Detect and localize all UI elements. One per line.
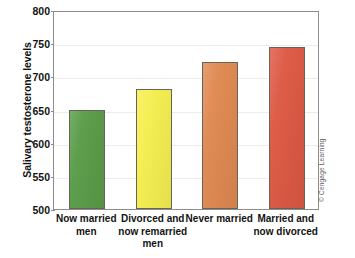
x-axis-label-line: men xyxy=(50,226,123,239)
y-tick-label: 550 xyxy=(24,172,50,182)
y-tick-label: 600 xyxy=(24,139,50,149)
y-tick-label: 700 xyxy=(24,72,50,82)
x-axis-label-line: now remarried xyxy=(117,226,190,239)
y-tick-label: 750 xyxy=(24,39,50,49)
x-axis-label-line: Divorced and xyxy=(117,213,190,226)
x-axis-label-line: men xyxy=(117,238,190,251)
y-axis-tick-labels: 500550600650700750800 xyxy=(24,0,50,258)
x-axis-label-line: now divorced xyxy=(250,226,323,239)
plot-area xyxy=(53,11,319,210)
bar xyxy=(269,47,305,209)
x-axis-label-line: Never married xyxy=(183,213,256,226)
y-tick-label: 500 xyxy=(24,205,50,215)
x-axis-category-labels: Now marriedmenDivorced andnow remarriedm… xyxy=(53,213,319,258)
bar xyxy=(69,110,105,210)
bar-chart-figure: Salivary testosterone levels 50055060065… xyxy=(0,0,355,258)
x-axis-label: Never married xyxy=(183,213,256,226)
x-axis-label-line: Married and xyxy=(250,213,323,226)
x-axis-label: Now marriedmen xyxy=(50,213,123,238)
copyright-credit: © Cengage Learning xyxy=(318,122,325,202)
y-tick-mark xyxy=(51,210,55,211)
y-tick-label: 800 xyxy=(24,6,50,16)
x-axis-label: Divorced andnow remarriedmen xyxy=(117,213,190,251)
bar-sheen xyxy=(137,90,171,208)
bar-sheen xyxy=(70,111,104,209)
y-tick-label: 650 xyxy=(24,106,50,116)
x-axis-label: Married andnow divorced xyxy=(250,213,323,238)
bar-sheen xyxy=(203,63,237,208)
bars-group xyxy=(54,12,318,209)
bar xyxy=(136,89,172,209)
bar xyxy=(202,62,238,209)
bar-sheen xyxy=(270,48,304,208)
x-axis-label-line: Now married xyxy=(50,213,123,226)
